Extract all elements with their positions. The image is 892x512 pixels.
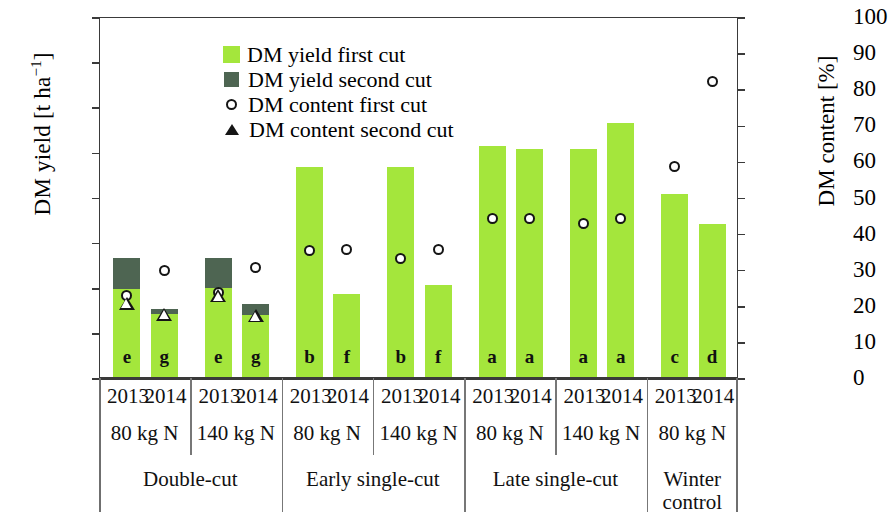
y-axis-right-tick [737, 342, 745, 344]
triangle-fill [250, 312, 260, 321]
bar-segment-first-cut [479, 146, 506, 377]
significance-letter-label: g [242, 347, 269, 366]
dm-content-first-cut-marker [250, 262, 261, 273]
y-axis-left-title-main: DM yield [t ha [30, 77, 55, 216]
category-system-label: Wintercontrol [647, 468, 738, 512]
y-axis-left-title-exponent: −1 [28, 60, 44, 76]
y-axis-right-tick-label: 50 [853, 186, 892, 209]
category-panel-divider [555, 378, 556, 455]
dm-content-first-cut-marker [524, 213, 535, 224]
significance-letter-label: b [296, 347, 323, 366]
y-axis-left-tick [92, 153, 100, 155]
bar-column: a [607, 16, 634, 377]
category-system-divider [464, 378, 465, 512]
triangle-fill [159, 310, 169, 319]
legend-label: DM content first cut [248, 92, 427, 117]
y-axis-left-tick [92, 107, 100, 109]
significance-letter-label: f [425, 347, 452, 366]
bar-segment-first-cut [570, 149, 597, 377]
dm-content-first-cut-marker [433, 244, 444, 255]
dm-content-first-cut-marker [159, 265, 170, 276]
y-axis-right-tick [737, 198, 745, 200]
bar-segment-second-cut [113, 258, 140, 289]
bar-column: g [151, 16, 178, 377]
y-axis-right-tick [737, 234, 745, 236]
open-triangle-icon [225, 124, 239, 135]
category-table-left-border [99, 378, 101, 512]
y-axis-right-tick [737, 378, 745, 380]
y-axis-left-tick [92, 288, 100, 290]
significance-letter-label: a [516, 347, 543, 366]
y-axis-right-tick-label: 90 [853, 41, 892, 64]
category-system-label: Late single-cut [464, 468, 647, 491]
y-axis-left-tick [92, 17, 100, 19]
triangle-fill [121, 299, 131, 308]
dm-content-first-cut-marker [395, 253, 406, 264]
legend-item: DM content first cut [223, 92, 454, 117]
triangle-fill [213, 292, 223, 301]
y-axis-right-tick-label: 30 [853, 258, 892, 281]
dm-content-first-cut-marker [707, 76, 718, 87]
y-axis-right-tick-label: 100 [853, 5, 892, 28]
y-axis-right-tick-label: 60 [853, 149, 892, 172]
significance-letter-label: g [151, 347, 178, 366]
category-system-divider [282, 378, 283, 512]
chart-legend: DM yield first cutDM yield second cutDM … [223, 42, 454, 142]
dm-content-first-cut-marker [487, 213, 498, 224]
dm-content-first-cut-marker [669, 161, 680, 172]
y-axis-right-tick-label: 40 [853, 222, 892, 245]
y-axis-right-tick [737, 17, 745, 19]
significance-letter-label: e [205, 347, 232, 366]
bar-column: a [516, 16, 543, 377]
y-axis-right-tick-label: 70 [853, 113, 892, 136]
category-table-top-border [99, 378, 738, 380]
category-system-label: Double-cut [99, 468, 282, 491]
legend-label: DM yield first cut [247, 42, 405, 67]
category-axis-table: 2013201420132014201320142013201420132014… [99, 378, 738, 512]
bar-column: c [661, 16, 688, 377]
dm-content-first-cut-marker [341, 244, 352, 255]
legend-item: DM content second cut [223, 117, 454, 142]
significance-letter-label: a [570, 347, 597, 366]
category-system-label: Early single-cut [282, 468, 465, 491]
y-axis-right-tick-label: 0 [853, 366, 892, 389]
y-axis-right-tick [737, 306, 745, 308]
y-axis-right-tick-label: 10 [853, 330, 892, 353]
y-axis-left-tick [92, 243, 100, 245]
y-axis-left-tick [92, 198, 100, 200]
significance-letter-label: f [333, 347, 360, 366]
category-panel-divider [190, 378, 191, 455]
significance-letter-label: e [113, 347, 140, 366]
y-axis-right-tick [737, 89, 745, 91]
y-axis-left-title: DM yield [t ha−1] [28, 4, 56, 264]
significance-letter-label: c [661, 347, 688, 366]
category-system-divider [647, 378, 648, 512]
y-axis-right-tick-label: 20 [853, 294, 892, 317]
legend-label: DM yield second cut [248, 67, 432, 92]
legend-item: DM yield second cut [223, 67, 454, 92]
category-nitrogen-label: 80 kg N [99, 422, 190, 445]
bar-segment-first-cut [607, 123, 634, 377]
category-nitrogen-label: 80 kg N [282, 422, 373, 445]
y-axis-right-tick [737, 162, 745, 164]
dark-green-square-icon [224, 72, 239, 87]
legend-label: DM content second cut [249, 117, 454, 142]
bar-column: e [113, 16, 140, 377]
category-nitrogen-label: 80 kg N [647, 422, 738, 445]
legend-item: DM yield first cut [223, 42, 454, 67]
light-green-square-icon [223, 46, 240, 63]
category-nitrogen-label: 140 kg N [373, 422, 464, 445]
y-axis-right-tick [737, 270, 745, 272]
significance-letter-label: d [699, 347, 726, 366]
y-axis-right-tick [737, 53, 745, 55]
bar-segment-first-cut [516, 149, 543, 377]
category-nitrogen-label: 140 kg N [190, 422, 281, 445]
significance-letter-label: a [479, 347, 506, 366]
y-axis-left-title-close: ] [30, 52, 55, 60]
bar-segment-second-cut [205, 258, 232, 288]
category-panel-divider [373, 378, 374, 455]
open-circle-icon [226, 99, 237, 110]
bar-column: a [479, 16, 506, 377]
category-table-right-border [736, 378, 738, 512]
